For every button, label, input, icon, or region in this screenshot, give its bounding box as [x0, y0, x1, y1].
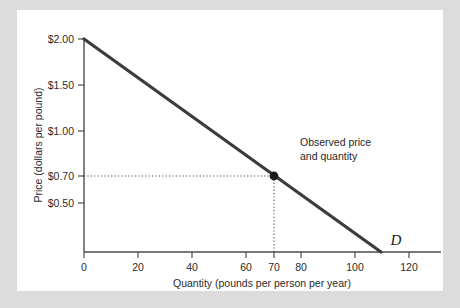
demand-curve-label: D — [390, 232, 402, 248]
x-tick-label-100: 100 — [346, 261, 364, 273]
chart-panel: $2.00 $1.50 $1.00 $0.70 $0.50 0 20 40 60… — [17, 10, 443, 291]
x-tick-label-60: 60 — [240, 261, 252, 273]
x-tick-label-70: 70 — [268, 261, 280, 273]
y-tick-label-1-00: $1.00 — [48, 125, 74, 137]
observed-annotation-line1: Observed price — [300, 136, 371, 148]
x-tick-label-0: 0 — [81, 261, 87, 273]
x-tick-label-20: 20 — [132, 261, 144, 273]
y-tick-label-2-00: $2.00 — [48, 33, 74, 45]
y-axis-title: Price (dollars per pound) — [32, 88, 44, 203]
y-tick-label-0-50: $0.50 — [48, 197, 74, 209]
x-axis-title: Quantity (pounds per person per year) — [173, 277, 351, 289]
x-tick-label-40: 40 — [186, 261, 198, 273]
x-tick-label-120: 120 — [400, 261, 418, 273]
x-tick-label-80: 80 — [295, 261, 307, 273]
observed-annotation-line2: and quantity — [300, 150, 358, 162]
observed-point-marker — [270, 172, 279, 181]
y-axis-ticks — [78, 39, 84, 203]
demand-curve-chart: $2.00 $1.50 $1.00 $0.70 $0.50 0 20 40 60… — [17, 10, 443, 291]
y-tick-label-0-70: $0.70 — [48, 170, 74, 182]
figure-frame: $2.00 $1.50 $1.00 $0.70 $0.50 0 20 40 60… — [0, 0, 460, 308]
y-tick-label-1-50: $1.50 — [48, 79, 74, 91]
x-axis-ticks — [84, 252, 409, 258]
